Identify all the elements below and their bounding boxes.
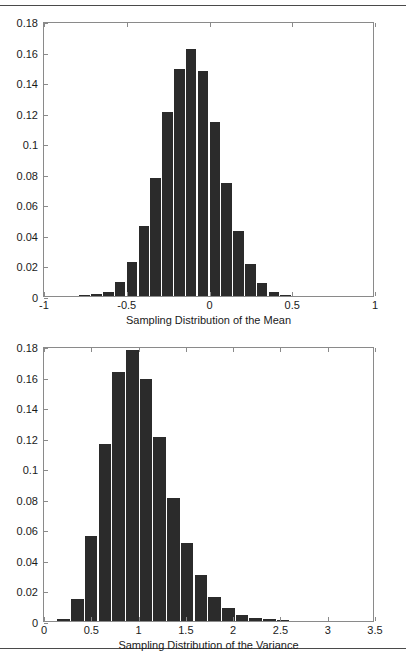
x-tick-mark-top <box>44 23 45 27</box>
x-tick-mark-top <box>328 348 329 352</box>
histogram-bar <box>210 122 221 296</box>
histogram-bar <box>99 444 112 621</box>
x-tick-label: 1.5 <box>178 625 193 636</box>
histogram-bar <box>257 283 268 296</box>
figure-page: 00.020.040.060.080.10.120.140.160.18 -1-… <box>0 0 406 655</box>
y-tick-label: 0.14 <box>17 79 38 90</box>
x-tick-label: 1 <box>136 625 142 636</box>
y-tick-label: 0.14 <box>17 404 38 415</box>
y-tick-mark <box>44 145 48 146</box>
histogram-bar <box>181 543 194 621</box>
x-tick-mark-top <box>292 23 293 27</box>
x-tick-mark <box>292 292 293 296</box>
y-tick-label: 0.1 <box>23 465 38 476</box>
x-tick-mark <box>127 292 128 296</box>
y-tick-mark <box>44 379 48 380</box>
chart-sampling-distribution-variance: 00.020.040.060.080.10.120.140.160.18 00.… <box>0 337 406 642</box>
x-tick-mark-top <box>375 348 376 352</box>
x-tick-mark <box>375 617 376 621</box>
histogram-bar <box>195 575 208 621</box>
y-tick-label: 0.08 <box>17 170 38 181</box>
histogram-bar <box>174 69 185 296</box>
y-tick-mark <box>44 409 48 410</box>
x-tick-label: 0.5 <box>285 300 300 311</box>
x-axis-title-mean: Sampling Distribution of the Mean <box>43 315 374 326</box>
y-tick-label: 0.04 <box>17 231 38 242</box>
histogram-bar <box>269 292 280 296</box>
y-tick-label: 0.1 <box>23 140 38 151</box>
x-tick-mark <box>91 617 92 621</box>
x-tick-mark <box>328 617 329 621</box>
x-axis-title-variance: Sampling Distribution of the Variance <box>43 640 374 651</box>
y-tick-label: 0.16 <box>17 373 38 384</box>
x-tick-mark <box>139 617 140 621</box>
x-tick-mark-top <box>44 348 45 352</box>
x-tick-label: 3 <box>325 625 331 636</box>
histogram-bar <box>57 619 70 621</box>
y-tick-mark <box>44 470 48 471</box>
y-tick-label: 0.02 <box>17 587 38 598</box>
y-tick-mark <box>44 501 48 502</box>
y-tick-mark <box>44 115 48 116</box>
histogram-bar <box>127 262 138 296</box>
histogram-bar <box>162 112 173 296</box>
plot-area-mean: 00.020.040.060.080.10.120.140.160.18 -1-… <box>43 22 374 297</box>
y-tick-mark <box>44 206 48 207</box>
y-tick-label: 0.08 <box>17 495 38 506</box>
x-tick-mark <box>186 617 187 621</box>
bars-container-mean <box>44 23 373 296</box>
y-tick-label: 0.02 <box>17 262 38 273</box>
histogram-bar <box>85 536 98 621</box>
x-tick-label: 2 <box>230 625 236 636</box>
histogram-bar <box>280 295 291 296</box>
histogram-bar <box>221 183 232 296</box>
histogram-bar <box>198 71 209 296</box>
x-tick-label: 0 <box>41 625 47 636</box>
x-tick-mark-top <box>139 348 140 352</box>
x-tick-mark-top <box>280 348 281 352</box>
x-tick-mark-top <box>127 23 128 27</box>
x-tick-mark <box>210 292 211 296</box>
y-tick-label: 0.18 <box>17 18 38 29</box>
histogram-bar <box>236 615 249 621</box>
bars-container-variance <box>44 348 373 621</box>
histogram-bar <box>115 282 126 296</box>
x-tick-label: 0.5 <box>84 625 99 636</box>
histogram-bar <box>249 618 262 621</box>
y-tick-mark <box>44 592 48 593</box>
y-tick-label: 0.12 <box>17 434 38 445</box>
y-tick-label: 0 <box>32 618 38 629</box>
histogram-bar <box>126 350 139 621</box>
x-tick-mark <box>375 292 376 296</box>
x-tick-mark <box>280 617 281 621</box>
y-tick-mark <box>44 440 48 441</box>
x-tick-label: 0 <box>206 300 212 311</box>
histogram-bar <box>140 379 153 621</box>
plot-area-variance: 00.020.040.060.080.10.120.140.160.18 00.… <box>43 347 374 622</box>
histogram-bar <box>139 226 150 296</box>
histogram-bar <box>233 231 244 296</box>
x-tick-mark <box>44 617 45 621</box>
x-tick-mark-top <box>91 348 92 352</box>
histogram-bar <box>79 295 90 296</box>
histogram-bar <box>112 372 125 621</box>
histogram-bar <box>150 178 161 296</box>
x-tick-label: 2.5 <box>273 625 288 636</box>
y-tick-label: 0.18 <box>17 343 38 354</box>
y-tick-label: 0.06 <box>17 526 38 537</box>
top-horizontal-rule <box>0 5 406 6</box>
histogram-bar <box>91 294 102 296</box>
histogram-bar <box>245 264 256 296</box>
histogram-bar <box>167 498 180 621</box>
y-tick-label: 0.04 <box>17 556 38 567</box>
y-tick-mark <box>44 84 48 85</box>
x-tick-label: -0.5 <box>117 300 136 311</box>
x-tick-label: 3.5 <box>367 625 382 636</box>
y-tick-mark <box>44 531 48 532</box>
histogram-bar <box>186 49 197 296</box>
y-tick-mark <box>44 267 48 268</box>
x-tick-label: -1 <box>39 300 49 311</box>
y-tick-label: 0 <box>32 293 38 304</box>
y-tick-mark <box>44 54 48 55</box>
x-tick-mark-top <box>233 348 234 352</box>
